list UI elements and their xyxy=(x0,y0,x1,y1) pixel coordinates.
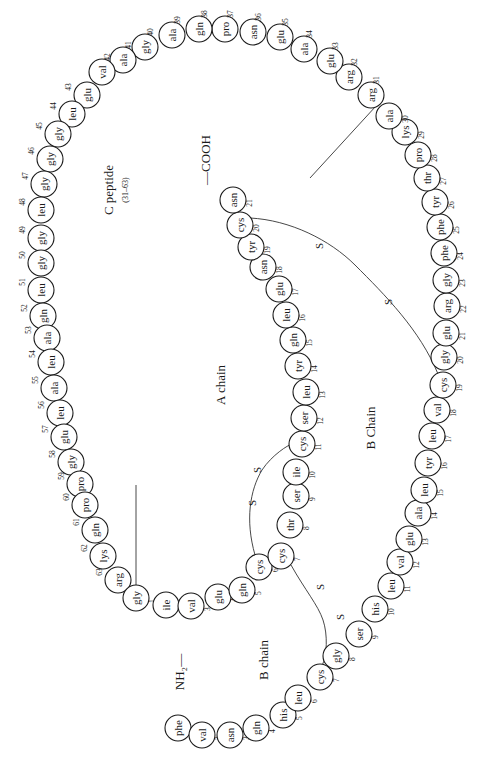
residue-number: 18 xyxy=(449,409,458,417)
residue-number: 36 xyxy=(254,13,263,21)
residue-number: 52 xyxy=(20,304,29,312)
residue-number: 4 xyxy=(268,729,277,733)
b-chain-residue-13: glu13 xyxy=(396,526,430,552)
residue-label: cys xyxy=(437,378,449,393)
residue-label: gly xyxy=(65,454,77,469)
b-chain-residue-26: tyr26 xyxy=(422,189,456,215)
residue-label: glu xyxy=(403,531,415,546)
c-peptide-residue-50: gly50 xyxy=(18,250,54,276)
residue-number: 17 xyxy=(444,435,453,443)
b-chain-residue-14: ala14 xyxy=(405,500,439,526)
residue-label: glu xyxy=(212,589,224,604)
c-peptide-residue-60: pro60 xyxy=(62,492,98,518)
residue-number: 13 xyxy=(421,538,430,546)
residue-label: ser xyxy=(353,627,365,640)
a-chain-residue-8: thr8 xyxy=(277,512,311,538)
residue-number: 30 xyxy=(401,115,410,123)
residue-number: 12 xyxy=(316,417,325,425)
c-peptide-residue-45: gly45 xyxy=(35,121,71,147)
residue-label: pro xyxy=(79,497,91,512)
residue-number: 11 xyxy=(403,585,412,592)
b-chain-residue-28: pro28 xyxy=(405,142,439,168)
residue-label: ala xyxy=(117,53,129,66)
a-chain-residue-15: gln15 xyxy=(280,327,314,353)
residue-number: 14 xyxy=(430,512,439,520)
b-chain-residue-20: gly20 xyxy=(431,344,465,370)
residue-number: 35 xyxy=(281,18,290,26)
residue-label: phe xyxy=(172,720,184,736)
residue-number: 48 xyxy=(18,198,27,206)
residue-label: leu xyxy=(280,308,292,322)
residue-label: cys xyxy=(296,437,308,452)
b-chain-lower-label: B chain xyxy=(256,639,271,680)
b-chain-residue-23: gly23 xyxy=(433,267,467,293)
residue-number: 44 xyxy=(49,102,58,110)
residue-label: leu xyxy=(300,385,312,399)
residue-number: 46 xyxy=(27,147,36,155)
residue-number: 15 xyxy=(436,489,445,497)
residue-number: 37 xyxy=(226,10,235,18)
residue-label: gln xyxy=(193,21,205,36)
residue-label: gln xyxy=(236,582,248,597)
b-chain-residue-25: phe25 xyxy=(427,214,461,240)
residue-label: glu xyxy=(324,53,336,68)
residue-label: gln xyxy=(250,720,262,735)
residue-label: asn xyxy=(257,259,269,274)
residue-number: 20 xyxy=(252,224,261,232)
residue-number: 9 xyxy=(308,497,317,501)
c-peptide-residue-55: ala55 xyxy=(31,375,67,401)
residue-number: 39 xyxy=(173,16,182,24)
c-peptide-range-label: (31–63) xyxy=(121,177,130,203)
c-peptide-residue-47: gly47 xyxy=(21,171,57,197)
residue-label: leu xyxy=(45,355,57,369)
c-peptide-residue-40: gly40 xyxy=(132,28,158,60)
c-peptide-residue-61: gln61 xyxy=(72,517,108,543)
c-peptide-residue-54: leu54 xyxy=(28,349,64,375)
residue-label: glu xyxy=(274,29,286,44)
proinsulin-diagram: S S S S S S arg31arg32glu33ala34glu35asn… xyxy=(0,0,486,757)
residue-number: 32 xyxy=(350,58,359,66)
sulfur-label: S xyxy=(382,299,394,305)
residue-label: tyr xyxy=(429,196,441,209)
sulfur-label: S xyxy=(334,614,346,620)
residue-label: arg xyxy=(343,70,355,84)
residue-label: his xyxy=(369,603,381,616)
residue-label: gln xyxy=(89,522,101,537)
residue-number: 34 xyxy=(305,30,314,38)
c-peptide-residue-36: asn36 xyxy=(240,13,266,45)
residue-number: 45 xyxy=(35,122,44,130)
residue-label: ser xyxy=(298,411,310,424)
b-chain-residue-22: arg22 xyxy=(434,293,468,319)
residue-label: cys xyxy=(234,218,246,233)
residue-number: 61 xyxy=(72,518,81,526)
residue-number: 41 xyxy=(124,41,133,49)
c-peptide-label: C peptide xyxy=(101,165,116,215)
residue-label: gly xyxy=(440,272,452,287)
residue-number: 58 xyxy=(48,450,57,458)
c-peptide-residue-49: gly49 xyxy=(18,225,54,251)
sulfur-label: S xyxy=(314,584,326,590)
residue-label: gly xyxy=(44,151,56,166)
residue-number: 38 xyxy=(200,10,209,18)
residue-label: thr xyxy=(421,172,433,185)
residue-label: ile xyxy=(290,466,302,477)
residue-label: ala xyxy=(383,109,395,122)
residue-number: 49 xyxy=(18,226,27,234)
c-peptide-residue-42: val42 xyxy=(89,53,115,85)
residue-number: 16 xyxy=(298,314,307,322)
a-chain-residue-11: cys11 xyxy=(289,431,323,457)
residue-number: 7 xyxy=(332,678,341,682)
residue-label: cys xyxy=(275,549,287,564)
residue-label: ala xyxy=(41,331,53,344)
residue-label: gly xyxy=(35,230,47,245)
residue-label: asn xyxy=(227,192,239,207)
residue-label: tyr xyxy=(245,241,257,254)
c-peptide-residue-37: pro37 xyxy=(212,10,238,42)
b-chain-residue-9: ser9 xyxy=(346,621,380,647)
residue-label: his xyxy=(277,709,289,722)
c-peptide-chain: arg31arg32glu33ala34glu35asn36pro37gln38… xyxy=(18,10,384,593)
residue-label: leu xyxy=(35,283,47,297)
residue-label: glu xyxy=(273,281,285,296)
residue-number: 15 xyxy=(305,339,314,347)
residue-number: 11 xyxy=(314,443,323,450)
